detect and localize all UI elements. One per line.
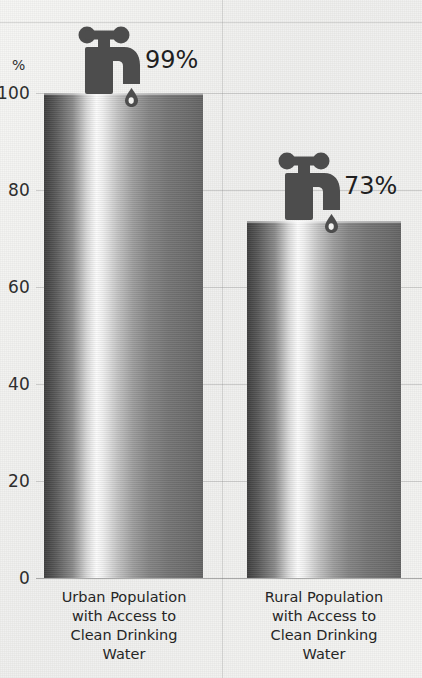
y-tick-label-100: 100 xyxy=(0,85,30,102)
faucet-icon xyxy=(68,26,152,108)
category-label-urban-line-3: Clean Drinking xyxy=(38,626,210,645)
y-tick-label-60: 60 xyxy=(0,279,30,296)
top-rule xyxy=(0,22,422,23)
category-label-rural-line-1: Rural Population xyxy=(238,588,410,607)
value-label-rural: 73% xyxy=(344,174,397,198)
y-axis-unit-label: % xyxy=(12,58,25,72)
water-access-bar-chart: % 100 80 60 40 20 0 xyxy=(0,0,422,678)
bar-rural xyxy=(247,221,401,578)
category-label-rural-line-4: Water xyxy=(238,645,410,664)
vertical-separator-line xyxy=(222,0,223,678)
category-label-urban: Urban Population with Access to Clean Dr… xyxy=(38,588,210,664)
y-tick-label-20: 20 xyxy=(0,473,30,490)
category-label-urban-line-1: Urban Population xyxy=(38,588,210,607)
category-label-urban-line-4: Water xyxy=(38,645,210,664)
bar-urban xyxy=(44,93,203,578)
y-tick-label-80: 80 xyxy=(0,182,30,199)
category-label-urban-line-2: with Access to xyxy=(38,607,210,626)
category-label-rural-line-3: Clean Drinking xyxy=(238,626,410,645)
category-label-rural: Rural Population with Access to Clean Dr… xyxy=(238,588,410,664)
faucet-icon xyxy=(268,152,352,234)
y-tick-label-0: 0 xyxy=(0,570,30,587)
value-label-urban: 99% xyxy=(145,48,198,72)
category-label-rural-line-2: with Access to xyxy=(238,607,410,626)
plot-area: % 100 80 60 40 20 0 xyxy=(0,0,422,678)
y-tick-label-40: 40 xyxy=(0,376,30,393)
axis-baseline xyxy=(36,578,422,579)
